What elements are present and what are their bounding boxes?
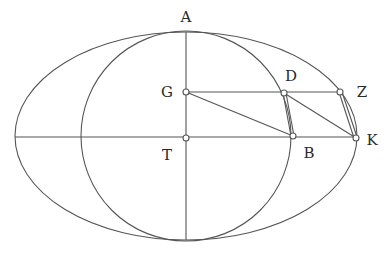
point-B [290,133,296,139]
line-ZK-a [339,92,354,138]
label-K: K [366,131,378,149]
point-D [281,90,287,96]
point-Z [337,89,343,95]
label-Z: Z [357,83,367,101]
label-G: G [161,83,173,101]
line-GB [186,92,293,136]
point-T [183,135,189,141]
point-K [353,135,359,141]
geometry-diagram: A G T D Z B K [0,0,385,256]
label-B: B [303,144,314,162]
label-D: D [285,67,297,85]
line-DK [284,93,356,138]
point-G [183,89,189,95]
label-T: T [162,146,172,164]
label-A: A [180,8,192,26]
